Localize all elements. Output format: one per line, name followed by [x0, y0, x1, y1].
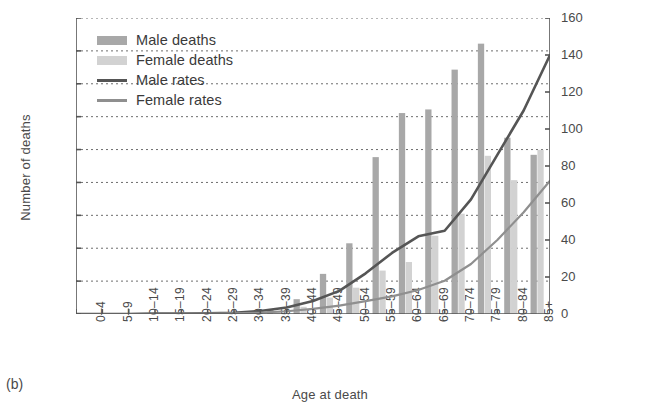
bar-male-deaths-17 [531, 155, 537, 314]
bar-female-deaths-11 [379, 271, 385, 314]
bar-female-deaths-15 [485, 156, 491, 314]
bar-female-deaths-13 [432, 236, 438, 314]
bar-male-deaths-13 [425, 109, 431, 314]
bar-female-deaths-12 [406, 262, 412, 314]
bar-male-deaths-12 [399, 113, 405, 314]
y-axis-left-title: Number of deaths [18, 83, 33, 253]
figure-panel-b: Number of deaths Rate per 100000 populat… [0, 0, 647, 409]
bar-male-deaths-11 [373, 157, 379, 314]
legend-swatch-icon [97, 56, 127, 65]
y-right-tick-80: 80 [561, 159, 607, 172]
bar-female-deaths-14 [458, 214, 464, 314]
chart-legend: Male deathsFemale deathsMale ratesFemale… [97, 30, 233, 110]
legend-label: Male rates [136, 72, 205, 88]
legend-item-1: Female deaths [97, 50, 233, 70]
y-right-tick-160: 160 [561, 11, 607, 24]
bar-female-deaths-17 [537, 150, 543, 314]
y-right-tick-140: 140 [561, 48, 607, 61]
y-right-tick-100: 100 [561, 122, 607, 135]
legend-line-icon [97, 79, 127, 82]
legend-item-3: Female rates [97, 90, 233, 110]
legend-line-icon [97, 99, 127, 102]
legend-item-2: Male rates [97, 70, 233, 90]
legend-label: Male deaths [136, 32, 216, 48]
x-axis-title: Age at death [200, 387, 460, 402]
y-right-tick-120: 120 [561, 85, 607, 98]
y-right-tick-40: 40 [561, 233, 607, 246]
legend-item-0: Male deaths [97, 30, 233, 50]
y-right-tick-20: 20 [561, 270, 607, 283]
legend-label: Female rates [136, 92, 222, 108]
bar-female-deaths-16 [511, 180, 517, 314]
y-right-tick-60: 60 [561, 196, 607, 209]
legend-label: Female deaths [136, 52, 233, 68]
bar-female-deaths-10 [353, 288, 359, 314]
legend-swatch-icon [97, 36, 127, 45]
panel-label: (b) [6, 376, 23, 392]
bar-male-deaths-14 [452, 70, 458, 314]
y-right-tick-0: 0 [561, 307, 607, 320]
